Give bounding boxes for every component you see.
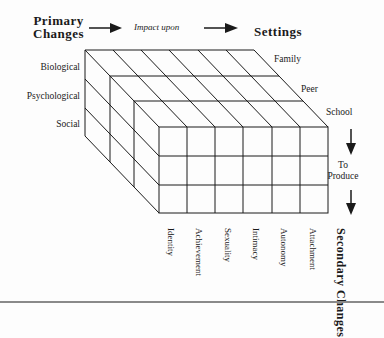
secondary-change-label: Sexuality: [223, 228, 233, 262]
primary-line2: Changes: [33, 27, 84, 40]
setting-label: Peer: [301, 84, 318, 94]
primary-change-label: Social: [0, 119, 80, 129]
secondary-changes-title: Secondary Changes: [334, 228, 347, 338]
secondary-change-label: Autonomy: [279, 228, 289, 267]
primary-change-label: Psychological: [0, 91, 80, 101]
arrow-down-icon: [346, 129, 356, 155]
primary-changes-title: Primary Changes: [33, 14, 84, 40]
secondary-change-label: Attachment: [308, 228, 318, 270]
secondary-change-label: Intimacy: [251, 228, 261, 260]
secondary-line2: Changes: [334, 290, 348, 338]
bottom-rule: [0, 301, 384, 303]
arrow-right-icon: [204, 23, 238, 33]
secondary-change-label: Achievement: [194, 228, 204, 276]
to-produce-line1: To: [320, 160, 366, 171]
impact-upon-label: Impact upon: [134, 22, 179, 32]
secondary-line1: Secondary: [334, 228, 348, 287]
setting-label: Family: [274, 54, 301, 64]
secondary-change-label: Identity: [166, 228, 176, 256]
to-produce-label: To Produce: [320, 160, 366, 182]
to-produce-line2: Produce: [320, 171, 366, 182]
primary-change-label: Biological: [0, 62, 80, 72]
settings-title: Settings: [254, 24, 302, 40]
setting-label: School: [326, 107, 352, 117]
arrow-right-icon: [89, 23, 122, 33]
arrow-down-icon: [346, 190, 356, 215]
